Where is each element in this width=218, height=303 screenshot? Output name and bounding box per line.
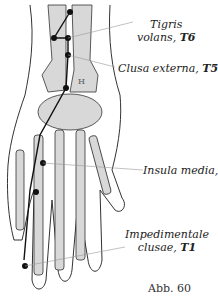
label-t1: Impedimentale clusae, T1 — [125, 228, 209, 254]
radius-bone — [42, 5, 66, 92]
label-t3: Insula media, T3 — [143, 164, 218, 177]
forearm-outline-right — [109, 5, 120, 95]
label-t6: Tigris volans, T6 — [137, 18, 195, 44]
forearm-outline-left — [25, 5, 32, 95]
label-t5: Clusa externa, T5 — [118, 62, 218, 75]
bone-marker: H — [78, 77, 85, 86]
figure-caption: Abb. 60 — [148, 282, 191, 295]
carpal-bones — [38, 94, 102, 130]
hand-illustration: H — [0, 0, 218, 303]
